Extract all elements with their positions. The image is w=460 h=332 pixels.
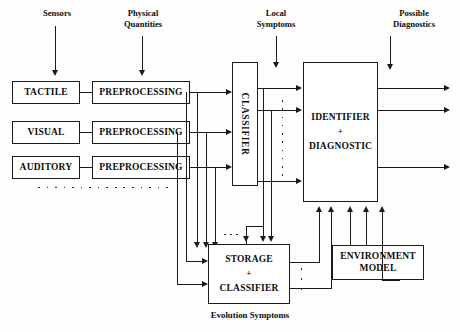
- block-auditory-label: AUDITORY: [20, 162, 73, 174]
- caption-physical-quantities-pointer-arrow: [139, 70, 145, 76]
- caption-local-symptoms-line1: Local: [232, 8, 320, 19]
- caption-possible-diagnostics-pointer-arrow: [387, 64, 393, 70]
- ellipsis-storage-outputs: [300, 268, 303, 290]
- block-classifier[interactable]: CLASSIFIER: [232, 62, 258, 186]
- feed-environment-identifier-3: [382, 212, 383, 280]
- link-visual-preprocessing: [80, 132, 92, 133]
- output-diagnostic-2: [378, 110, 448, 111]
- feed-preprocessing-2-classifier-arrow: [226, 129, 232, 135]
- branch-preprocessing-1-storage-arrow: [194, 242, 200, 248]
- caption-local-symptoms-pointer-line: [276, 36, 277, 64]
- feed-storage-identifier-2-arrow: [328, 206, 334, 212]
- caption-sensors-line1: Sensors: [22, 8, 92, 19]
- feed-storage-identifier-1-arrow: [316, 206, 322, 212]
- output-diagnostic-3-arrow: [444, 164, 450, 170]
- return-bus-left-1: [186, 92, 187, 261]
- branch-classifier-storage-2: [271, 110, 272, 238]
- feed-environment-identifier-2: [366, 212, 367, 245]
- feed-environment-identifier-3-horizontal: [382, 280, 400, 281]
- block-storage-plus: +: [246, 265, 251, 282]
- block-visual-label: VISUAL: [27, 127, 64, 139]
- caption-local-symptoms-line2: Symptoms: [232, 19, 320, 30]
- feed-environment-identifier-1: [350, 212, 351, 245]
- caption-local-symptoms: Local Symptoms: [232, 8, 320, 29]
- feed-storage-identifier-2-horizontal: [290, 288, 332, 289]
- ellipsis-classifier-outputs: [281, 100, 284, 176]
- caption-possible-diagnostics-line2: Diagnostics: [368, 19, 460, 30]
- caption-possible-diagnostics-line1: Possible: [368, 8, 460, 19]
- diagram-canvas: Sensors Physical Quantities Local Sympto…: [0, 0, 460, 332]
- block-preprocessing-3-label: PREPROCESSING: [99, 162, 182, 174]
- feed-environment-identifier-3-arrow: [379, 206, 385, 212]
- block-diagnostic-label: DIAGNOSTIC: [309, 141, 372, 153]
- block-identifier-label: IDENTIFIER: [311, 112, 370, 124]
- feed-classifier-identifier-2-arrow: [296, 107, 302, 113]
- feed-preprocessing-1-classifier-arrow: [226, 89, 232, 95]
- output-diagnostic-1: [378, 88, 448, 89]
- feed-classifier-identifier-1-arrow: [296, 85, 302, 91]
- feed-storage-identifier-1-horizontal: [290, 262, 320, 263]
- branch-classifier-storage-1-arrow: [260, 236, 266, 242]
- output-diagnostic-3: [378, 167, 448, 168]
- return-bus-left-2-arrow: [202, 281, 208, 287]
- feed-preprocessing-3-classifier: [190, 167, 230, 168]
- block-environment-model-line2: MODEL: [360, 263, 397, 275]
- caption-evolution-symptoms-text: Evolution Symptoms: [196, 310, 304, 321]
- feed-preprocessing-2-classifier: [190, 132, 230, 133]
- block-preprocessing-3[interactable]: PREPROCESSING: [92, 156, 190, 179]
- branch-classifier-storage-2-arrow: [268, 236, 274, 242]
- caption-local-symptoms-pointer-arrow: [273, 62, 279, 68]
- return-bus-left-2: [177, 132, 178, 284]
- branch-extra-storage-horizontal: [246, 226, 264, 227]
- caption-possible-diagnostics-pointer-line: [390, 36, 391, 66]
- link-auditory-preprocessing: [80, 167, 92, 168]
- block-preprocessing-1-label: PREPROCESSING: [99, 87, 182, 99]
- branch-classifier-storage-1: [263, 88, 264, 238]
- branch-preprocessing-2-storage-vertical: [206, 132, 207, 244]
- block-auditory[interactable]: AUDITORY: [12, 156, 80, 179]
- branch-preprocessing-1-storage-vertical: [197, 92, 198, 244]
- block-environment-model-line1: ENVIRONMENT: [340, 251, 416, 263]
- caption-sensors-pointer-arrow: [52, 70, 58, 76]
- block-tactile-label: TACTILE: [24, 87, 67, 99]
- block-classifier-label: CLASSIFIER: [240, 92, 250, 155]
- block-environment-model[interactable]: ENVIRONMENT MODEL: [332, 245, 424, 280]
- caption-sensors: Sensors: [22, 8, 92, 19]
- caption-physical-quantities-line2: Quantities: [100, 19, 186, 30]
- branch-extra-storage-arrow: [243, 236, 249, 242]
- block-visual[interactable]: VISUAL: [12, 121, 80, 144]
- feed-classifier-identifier-3-arrow: [296, 178, 302, 184]
- block-storage-classifier-label: CLASSIFIER: [219, 283, 278, 295]
- caption-evolution-symptoms: Evolution Symptoms: [196, 310, 304, 321]
- block-storage-classifier[interactable]: STORAGE + CLASSIFIER: [208, 244, 290, 304]
- caption-possible-diagnostics: Possible Diagnostics: [368, 8, 460, 29]
- caption-physical-quantities: Physical Quantities: [100, 8, 186, 29]
- feed-preprocessing-1-classifier: [190, 92, 230, 93]
- feed-storage-identifier-1-vertical: [319, 212, 320, 262]
- block-preprocessing-2-label: PREPROCESSING: [99, 127, 182, 139]
- ellipsis-sensor-rows: [38, 186, 168, 189]
- return-bus-left-1-arrow: [202, 258, 208, 264]
- feed-preprocessing-3-classifier-arrow: [226, 164, 232, 170]
- output-diagnostic-2-arrow: [444, 107, 450, 113]
- branch-preprocessing-3-storage-vertical: [215, 167, 216, 244]
- block-tactile[interactable]: TACTILE: [12, 81, 80, 104]
- block-identifier-plus: +: [338, 123, 343, 140]
- block-preprocessing-1[interactable]: PREPROCESSING: [92, 81, 190, 104]
- caption-sensors-pointer-line: [55, 26, 56, 72]
- block-storage-label: STORAGE: [225, 254, 273, 266]
- link-tactile-preprocessing: [80, 92, 92, 93]
- caption-physical-quantities-line1: Physical: [100, 8, 186, 19]
- block-preprocessing-2[interactable]: PREPROCESSING: [92, 121, 190, 144]
- caption-physical-quantities-pointer-line: [142, 36, 143, 72]
- ellipsis-storage-inputs: [224, 233, 238, 236]
- feed-environment-identifier-2-arrow: [363, 206, 369, 212]
- feed-classifier-identifier-3: [258, 181, 300, 182]
- block-identifier-diagnostic[interactable]: IDENTIFIER + DIAGNOSTIC: [303, 62, 378, 202]
- feed-classifier-identifier-2: [258, 110, 300, 111]
- feed-classifier-identifier-1: [258, 88, 300, 89]
- feed-environment-identifier-1-arrow: [347, 206, 353, 212]
- output-diagnostic-1-arrow: [444, 85, 450, 91]
